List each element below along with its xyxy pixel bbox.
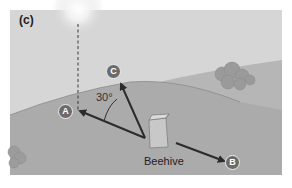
beehive-label: Beehive (144, 155, 184, 167)
marker-c: C (106, 64, 121, 79)
beehive-icon (149, 114, 169, 148)
bee-navigation-diagram: (c) 30° Beehive A C B (0, 0, 292, 188)
marker-a: A (58, 104, 73, 119)
marker-b: B (225, 155, 240, 170)
panel-label: (c) (19, 13, 34, 27)
angle-label: 30° (96, 91, 113, 103)
